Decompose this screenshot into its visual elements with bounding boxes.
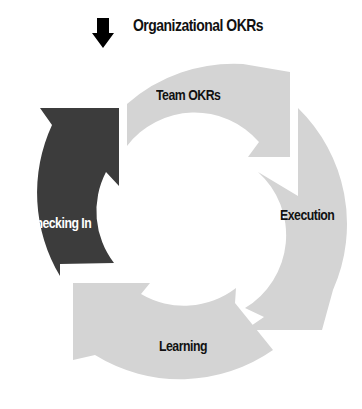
label-execution: Execution xyxy=(280,206,334,223)
segment-checking-in xyxy=(37,108,119,276)
down-arrow-icon xyxy=(92,18,114,48)
segment-team-okrs xyxy=(127,64,290,157)
diagram-title: Organizational OKRs xyxy=(133,16,263,36)
label-checking-in: Checking In xyxy=(27,214,91,231)
segment-learning xyxy=(73,283,273,379)
label-learning: Learning xyxy=(159,337,207,354)
okr-cycle-diagram: Organizational OKRs Team OKRs Execution … xyxy=(0,0,362,409)
label-team-okrs: Team OKRs xyxy=(156,86,220,103)
